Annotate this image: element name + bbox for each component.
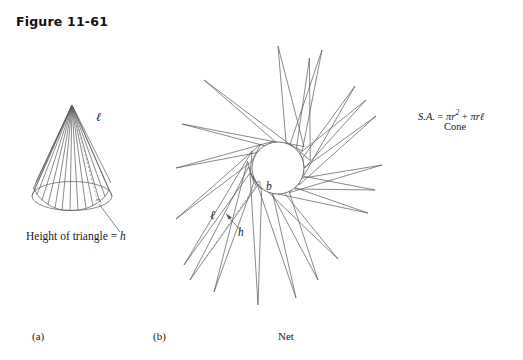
cone-illustration [32, 105, 120, 232]
cone-slant-label: ℓ [96, 110, 101, 125]
cone-height-callout: Height of triangle = h [26, 230, 126, 242]
net-illustration [176, 46, 382, 305]
surface-area-formula: S.A. = πr2 + πrℓ [418, 108, 484, 122]
net-h-arrowhead [226, 214, 232, 220]
cone-height-symbol: h [120, 230, 126, 242]
caption-part-b: (b) [153, 330, 166, 342]
formula-shape-label: Cone [444, 121, 466, 132]
cone-base-ellipse [32, 182, 112, 211]
cone-callout-leader [99, 204, 120, 232]
formula-equals: = [438, 111, 444, 122]
figure-root: Figure 11-61 [0, 0, 523, 360]
formula-term-one-exponent: 2 [455, 108, 459, 117]
cone-height-callout-text: Height of triangle = [26, 230, 117, 242]
net-triangle-height-label: h [238, 226, 244, 238]
formula-plus: + [462, 111, 468, 122]
net-base-arc-label: b [266, 180, 272, 192]
formula-term-two: πrℓ [470, 111, 484, 122]
caption-net: Net [278, 330, 294, 342]
net-slant-label: ℓ [210, 208, 215, 223]
formula-lead: S.A. [418, 111, 435, 122]
caption-part-a: (a) [32, 330, 44, 342]
figure-artwork [0, 0, 523, 360]
